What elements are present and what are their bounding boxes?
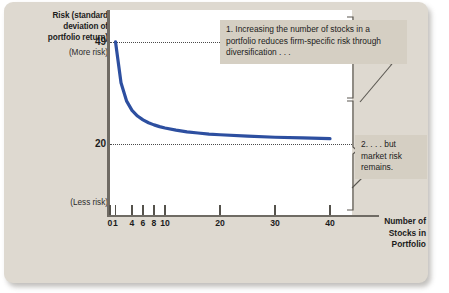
y-axis-less-risk-label: (Less risk)	[10, 198, 108, 207]
callout-market-risk: 2. . . . but market risk remains.	[355, 135, 427, 179]
y-axis-title-line-2: deviation of	[10, 21, 108, 32]
figure-panel: Risk (standard deviation of portfolio re…	[4, 2, 428, 283]
x-tick-mark-40	[329, 205, 331, 215]
x-tick-mark-6	[142, 205, 144, 215]
x-tick-label-8: 8	[152, 218, 157, 228]
x-tick-label-4: 4	[130, 218, 135, 228]
x-axis-title-line-2: Stocks in	[364, 228, 426, 240]
x-tick-mark-1	[115, 205, 117, 215]
y-tick-label-49: 49	[66, 36, 106, 47]
y-tick-label-20: 20	[66, 138, 106, 149]
x-tick-mark-20	[219, 205, 221, 215]
x-tick-label-40: 40	[325, 218, 335, 228]
x-tick-label-10: 10	[160, 218, 170, 228]
x-axis-title-line-3: Portfolio	[364, 239, 426, 251]
x-tick-mark-10	[164, 205, 166, 215]
x-tick-label-20: 20	[215, 218, 225, 228]
x-tick-label-30: 30	[270, 218, 280, 228]
y-axis-title-line-1: Risk (standard	[10, 10, 108, 21]
x-axis-title: Number of Stocks in Portfolio	[364, 216, 426, 251]
x-axis-title-line-1: Number of	[364, 216, 426, 228]
x-tick-label-6: 6	[141, 218, 146, 228]
leader-line-callout-2b	[352, 178, 362, 188]
x-tick-label-1: 1	[113, 218, 118, 228]
x-tick-mark-30	[274, 205, 276, 215]
leader-line-callout-1b	[360, 64, 392, 102]
callout-diversification: 1. Increasing the number of stocks in a …	[220, 20, 407, 64]
x-tick-mark-8	[153, 205, 155, 215]
x-tick-mark-4	[131, 205, 133, 215]
x-tick-mark-0	[109, 205, 111, 215]
x-tick-label-0: 0	[108, 218, 113, 228]
y-axis-more-risk-label: (More risk)	[10, 48, 108, 57]
